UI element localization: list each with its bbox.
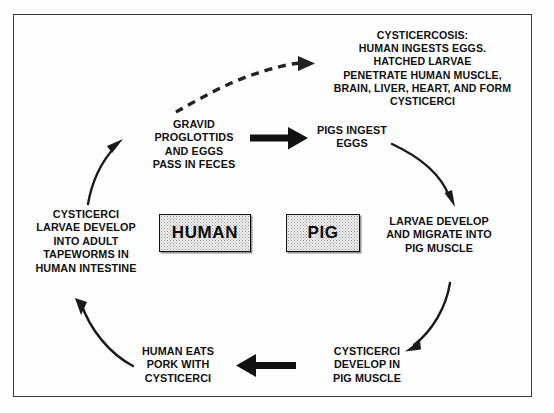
- life-cycle-diagram: CYSTICERCOSIS: HUMAN INGESTS EGGS. HATCH…: [0, 0, 554, 413]
- node-cysticerci-develop-pig-muscle: CYSTICERCI DEVELOP IN PIG MUSCLE: [315, 345, 419, 385]
- actor-box-pig: PIG: [286, 214, 360, 252]
- node-human-eats-pork: HUMAN EATS PORK WITH CYSTICERCI: [130, 345, 226, 385]
- node-pigs-ingest-eggs: PIGS INGEST EGGS: [306, 124, 398, 151]
- actor-label-human: HUMAN: [172, 223, 238, 243]
- node-larvae-develop: LARVAE DEVELOP AND MIGRATE INTO PIG MUSC…: [377, 215, 501, 255]
- node-cysticerci-larvae-adult-tapeworms: CYSTICERCI LARVAE DEVELOP INTO ADULT TAP…: [22, 208, 150, 275]
- node-gravid-proglottids: GRAVID PROGLOTTIDS AND EGGS PASS IN FECE…: [140, 118, 248, 172]
- actor-box-human: HUMAN: [159, 214, 251, 252]
- node-cysticercosis: CYSTICERCOSIS: HUMAN INGESTS EGGS. HATCH…: [320, 29, 525, 108]
- actor-label-pig: PIG: [307, 223, 338, 243]
